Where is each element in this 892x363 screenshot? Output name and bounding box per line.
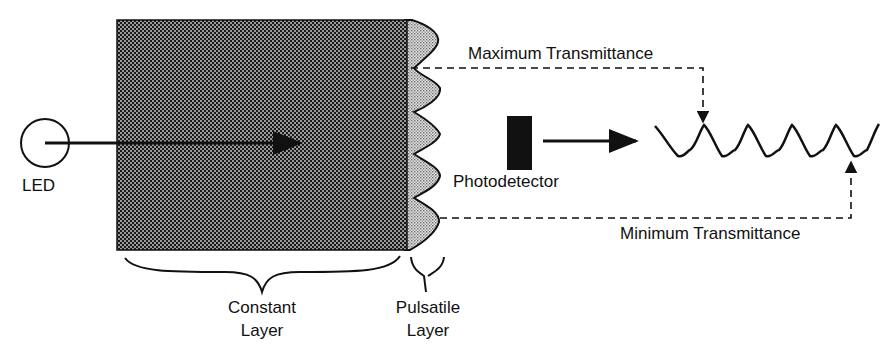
photodetector-label: Photodetector [453,172,559,192]
pulsatile-layer [405,20,440,250]
max-transmittance-connector [411,68,703,122]
ppg-diagram: LED Maximum Transmittance Photodetector … [0,0,892,363]
constant-layer-label-line2: Layer [212,321,312,341]
photodetector-icon [507,116,532,170]
constant-layer [117,20,407,250]
constant-layer-label: Constant Layer [212,298,312,341]
figure-caption-cropped [20,354,880,363]
pulsatile-layer-label-line1: Pulsatile [383,298,473,318]
constant-layer-brace [125,256,400,292]
pulse-waveform [655,124,879,156]
led-label: LED [22,176,55,196]
pulsatile-layer-label-line2: Layer [383,321,473,341]
min-transmittance-label: Minimum Transmittance [620,224,800,244]
pulsatile-layer-brace [411,257,444,292]
pulsatile-layer-label: Pulsatile Layer [383,298,473,341]
max-transmittance-label: Maximum Transmittance [468,44,653,64]
constant-layer-label-line1: Constant [212,298,312,318]
